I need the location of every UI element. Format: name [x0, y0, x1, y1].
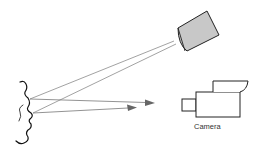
arrowhead-lower-icon: [127, 105, 137, 112]
light-source-icon: [178, 11, 219, 51]
face-eye-contour: [19, 105, 23, 121]
diagram-canvas: [0, 0, 261, 160]
camera-icon: [182, 81, 248, 117]
reflected-arrows: [30, 99, 155, 113]
incident-rays: [30, 41, 176, 113]
incident-ray-upper: [30, 41, 174, 99]
arrowhead-upper-icon: [145, 100, 155, 107]
reflected-ray-lower: [33, 108, 128, 113]
camera-label: Camera: [194, 122, 221, 131]
incident-ray-lower: [33, 44, 176, 113]
reflected-ray-upper: [30, 99, 146, 103]
face-profile-icon: [16, 81, 32, 143]
